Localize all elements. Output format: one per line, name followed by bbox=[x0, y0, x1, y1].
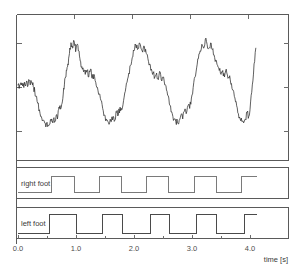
x-axis-title: time [s] bbox=[264, 255, 288, 264]
x-tick-label-4: 4.0 bbox=[245, 244, 255, 253]
gait-signal-figure: right foot left foot 0.0 1.0 2.0 3.0 4.0… bbox=[0, 0, 303, 270]
x-tick-label-0: 0.0 bbox=[13, 244, 23, 253]
left-foot-label: left foot bbox=[21, 219, 47, 228]
right-foot-trace bbox=[18, 177, 257, 193]
x-tick-label-2: 2.0 bbox=[129, 244, 139, 253]
left-foot-trace bbox=[18, 215, 257, 234]
x-axis-ticks bbox=[19, 235, 251, 239]
signal-trace bbox=[18, 38, 256, 127]
x-tick-label-3: 3.0 bbox=[187, 244, 197, 253]
chart-canvas: right foot left foot 0.0 1.0 2.0 3.0 4.0… bbox=[0, 0, 303, 270]
x-tick-label-1: 1.0 bbox=[71, 244, 81, 253]
right-foot-label: right foot bbox=[21, 179, 51, 188]
